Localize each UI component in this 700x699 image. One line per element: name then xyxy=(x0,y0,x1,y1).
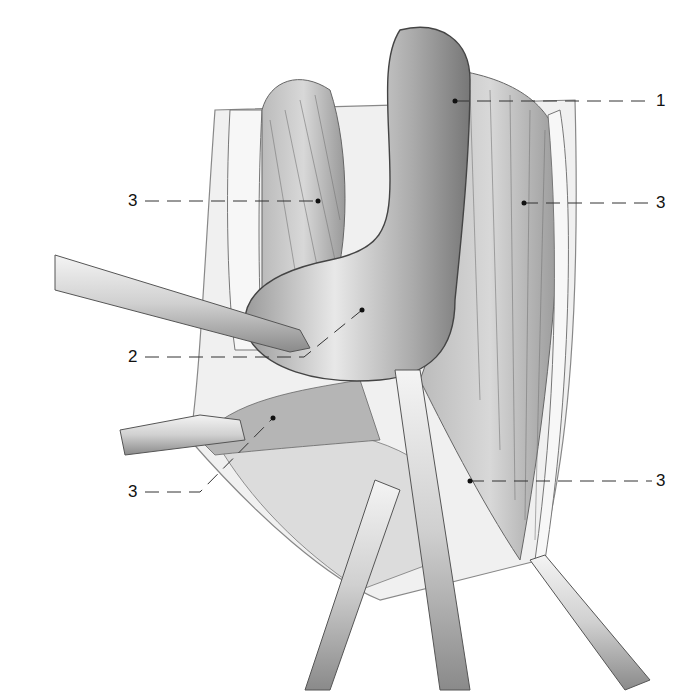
label-3-right-upper: 3 xyxy=(656,194,665,211)
label-2: 2 xyxy=(128,348,137,365)
illustration-figure: 1 3 3 2 3 3 xyxy=(0,0,700,699)
label-3-left-upper: 3 xyxy=(128,192,137,209)
anatomy-drawing xyxy=(0,0,700,699)
label-3-left-lower: 3 xyxy=(128,483,137,500)
retractor-right xyxy=(530,555,650,690)
label-3-right-lower: 3 xyxy=(656,472,665,489)
label-1: 1 xyxy=(656,92,665,109)
